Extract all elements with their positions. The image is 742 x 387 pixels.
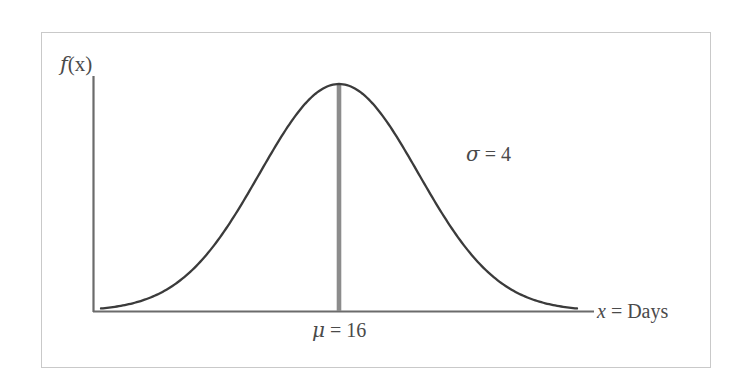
mean-annotation: μ = 16 [312,318,366,342]
x-axis-label: x = Days [597,300,668,323]
y-axis-label-var: f [60,52,68,76]
figure-root: f(x) x = Days μ = 16 σ = 4 [0,0,742,387]
x-axis-label-rest: = Days [606,300,668,322]
sigma-annotation-rest: = 4 [480,143,511,165]
x-axis-label-var: x [597,300,606,322]
y-axis-label-arg: (x) [68,52,93,76]
sigma-symbol: σ [466,142,480,166]
sigma-annotation: σ = 4 [466,142,511,166]
mean-annotation-rest: = 16 [325,319,366,341]
mu-symbol: μ [312,318,325,342]
normal-distribution-plot [0,0,742,387]
y-axis-label: f(x) [60,52,92,77]
